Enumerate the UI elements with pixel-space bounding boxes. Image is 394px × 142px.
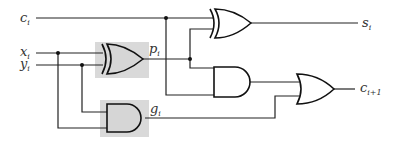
label-p-i: pi	[149, 41, 160, 58]
wire-p-i-to-xor-s	[190, 29, 213, 59]
wire-g-i	[145, 96, 300, 118]
or-gate-c	[297, 74, 334, 104]
and-gate-pc	[214, 67, 250, 97]
and-gate-g	[107, 104, 141, 132]
label-g-i: gi	[150, 101, 161, 118]
junction-y-i	[80, 63, 84, 67]
xor-gate-s	[210, 9, 251, 38]
label-s-i: si	[362, 15, 372, 32]
junction-p-i	[188, 57, 192, 61]
label-c-i-plus-1: ci+1	[360, 80, 382, 97]
label-c-i: ci	[20, 10, 30, 27]
junction-c-i	[164, 16, 168, 20]
wire-p-i-to-and-pc	[190, 59, 214, 68]
junction-x-i	[56, 51, 60, 55]
circuit-svg: ci xi yi pi gi si ci+1	[0, 0, 394, 142]
full-adder-circuit-diagram: ci xi yi pi gi si ci+1	[0, 0, 394, 142]
